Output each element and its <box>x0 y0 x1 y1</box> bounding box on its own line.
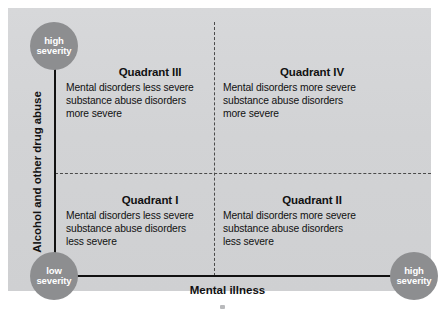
quadrant-1-title: Quadrant I <box>66 194 234 206</box>
quadrant-4-body-line2: substance abuse disorders <box>223 94 401 107</box>
y-axis-high-severity-badge: high severity <box>30 22 78 70</box>
x-axis-title: Mental illness <box>55 284 400 296</box>
x-high-severity-line2: severity <box>396 276 431 287</box>
quadrant-1-body-line2: substance abuse disorders <box>66 222 244 235</box>
page-artifact-mark <box>220 305 225 309</box>
y-axis-line <box>54 66 56 277</box>
quadrant-3-body-line2: substance abuse disorders <box>66 94 244 107</box>
quadrant-3-body-line3: more severe <box>66 107 244 120</box>
quadrant-3-body-line1: Mental disorders less severe <box>66 81 244 94</box>
y-axis-title: Alcohol and other drug abuse <box>31 72 43 272</box>
quadrant-4-body-line1: Mental disorders more severe <box>223 81 401 94</box>
quadrant-2-body-line3: less severe <box>223 235 401 248</box>
quadrant-3-block: Quadrant III Mental disorders less sever… <box>66 66 244 121</box>
quadrant-3-title: Quadrant III <box>66 66 234 78</box>
horizontal-divider-dashed <box>55 173 431 174</box>
quadrant-2-block: Quadrant II Mental disorders more severe… <box>223 194 401 249</box>
quadrant-4-block: Quadrant IV Mental disorders more severe… <box>223 66 401 121</box>
quadrant-2-title: Quadrant II <box>223 194 401 206</box>
y-high-severity-line2: severity <box>36 46 71 57</box>
quadrant-2-body: Mental disorders more severe substance a… <box>223 209 401 249</box>
quadrant-2-body-line2: substance abuse disorders <box>223 222 401 235</box>
quadrant-1-body-line1: Mental disorders less severe <box>66 209 244 222</box>
x-axis-line <box>54 275 399 277</box>
quadrant-1-body: Mental disorders less severe substance a… <box>66 209 244 249</box>
quadrant-3-body: Mental disorders less severe substance a… <box>66 81 244 121</box>
diagram-panel: high severity low severity high severity… <box>8 8 431 291</box>
quadrant-2-body-line1: Mental disorders more severe <box>223 209 401 222</box>
quadrant-1-body-line3: less severe <box>66 235 244 248</box>
quadrant-4-title: Quadrant IV <box>223 66 401 78</box>
quadrant-4-body: Mental disorders more severe substance a… <box>223 81 401 121</box>
quadrant-4-body-line3: more severe <box>223 107 401 120</box>
quadrant-1-block: Quadrant I Mental disorders less severe … <box>66 194 244 249</box>
